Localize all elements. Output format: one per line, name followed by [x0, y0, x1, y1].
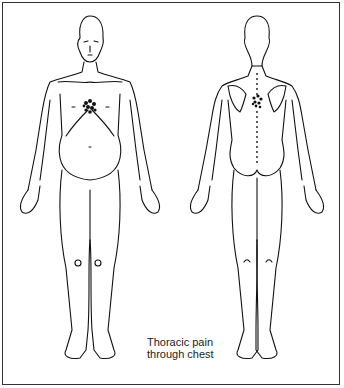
front-body-figure	[20, 16, 159, 359]
back-body-figure	[190, 16, 323, 359]
body-pain-diagram: Thoracic pain through chest	[0, 0, 344, 388]
back-pain-marker	[252, 94, 263, 108]
front-pain-marker	[83, 99, 97, 114]
caption-line-1: Thoracic pain	[147, 336, 214, 348]
caption-line-2: through chest	[147, 348, 214, 360]
spine-dotted-line	[256, 73, 258, 163]
diagram-caption: Thoracic pain through chest	[147, 336, 214, 360]
